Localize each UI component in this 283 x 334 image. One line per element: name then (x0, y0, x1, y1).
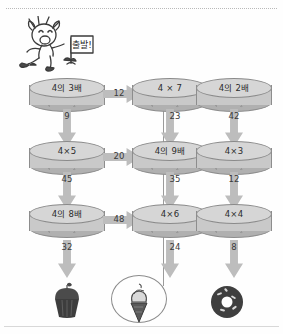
node-top: 4의 3배 (29, 78, 105, 98)
worksheet-page: 출발! 4의 3배 12 4 × 7 18 4의 2배 9 (0, 0, 283, 334)
node-label: 4×3 (225, 147, 244, 156)
arrow-value: 35 (157, 174, 193, 184)
arrow-value: 12 (107, 88, 131, 98)
node-top: 4×4 (196, 204, 272, 224)
cupcake-icon[interactable] (44, 278, 90, 324)
arrow-value: 45 (49, 174, 85, 184)
node-r2c3[interactable]: 4×3 (196, 141, 272, 175)
arrow-value: 12 (216, 174, 252, 184)
node-label: 4의 2배 (219, 84, 250, 93)
ice-cream-cone-icon[interactable] (116, 278, 162, 324)
node-r1c3[interactable]: 4의 2배 (196, 78, 272, 112)
arrow-value: 24 (157, 242, 193, 252)
running-boy-with-flag-icon: 출발! (12, 16, 98, 74)
node-label: 4의 9배 (155, 147, 186, 156)
arrow-down-c2-d3: 24 (161, 240, 179, 278)
flag-text: 출발! (72, 40, 92, 50)
arrow-down-c3-d3: 8 (225, 240, 243, 278)
node-label: 4×5 (58, 147, 77, 156)
arrow-value: 48 (107, 214, 131, 224)
arrow-value: 32 (49, 242, 85, 252)
node-label: 4 × 7 (158, 84, 182, 93)
top-rule-divider (6, 8, 277, 9)
node-top: 4의 8배 (29, 204, 105, 224)
arrow-value: 42 (216, 111, 252, 121)
node-r3c1[interactable]: 4의 8배 (29, 204, 105, 238)
node-label: 4의 8배 (52, 210, 83, 219)
node-top: 4의 2배 (196, 78, 272, 98)
node-top: 4×3 (196, 141, 272, 161)
node-label: 4의 3배 (52, 84, 83, 93)
node-label: 4×4 (225, 210, 244, 219)
arrow-value: 8 (216, 242, 252, 252)
donut-icon[interactable] (204, 278, 250, 324)
node-r3c3[interactable]: 4×4 (196, 204, 272, 238)
node-r2c1[interactable]: 4×5 (29, 141, 105, 175)
arrow-down-c1-d3: 32 (58, 240, 76, 278)
node-label: 4×6 (161, 210, 180, 219)
node-top: 4×5 (29, 141, 105, 161)
bottom-rule-divider (4, 326, 279, 327)
arrow-value: 9 (49, 111, 85, 121)
arrow-value: 20 (107, 151, 131, 161)
arrow-value: 23 (157, 111, 193, 121)
node-r1c1[interactable]: 4의 3배 (29, 78, 105, 112)
